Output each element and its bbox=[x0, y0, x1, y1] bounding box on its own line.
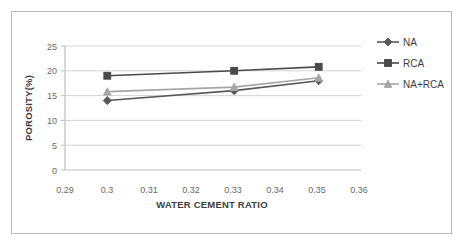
y-axis-tick-labels: 25 20 15 10 5 0 bbox=[47, 42, 57, 176]
chart-canvas: 25 20 15 10 5 0 POROSITY(%) 0.29 0.3 0.3… bbox=[12, 12, 453, 235]
x-tick-label: 0.3 bbox=[101, 185, 114, 195]
x-tick-label: 0.33 bbox=[224, 185, 242, 195]
legend-label: RCA bbox=[403, 58, 424, 69]
legend-item-na[interactable]: NA bbox=[377, 37, 417, 48]
x-tick-label: 0.36 bbox=[350, 185, 368, 195]
porosity-line-chart: 25 20 15 10 5 0 POROSITY(%) 0.29 0.3 0.3… bbox=[12, 12, 453, 235]
legend-item-rca[interactable]: RCA bbox=[377, 58, 424, 69]
data-point-marker bbox=[104, 72, 111, 79]
y-tick-label: 10 bbox=[47, 116, 57, 126]
x-axis-title: WATER CEMENT RATIO bbox=[156, 199, 267, 210]
x-tick-label: 0.32 bbox=[182, 185, 200, 195]
square-marker-icon bbox=[385, 60, 392, 67]
y-tick-label: 0 bbox=[52, 166, 57, 176]
legend-label: NA+RCA bbox=[403, 79, 444, 90]
x-axis-tick-labels: 0.29 0.3 0.31 0.32 0.33 0.34 0.35 0.36 bbox=[56, 185, 368, 195]
y-axis-title: POROSITY(%) bbox=[23, 75, 34, 141]
legend-item-na-plus-rca[interactable]: NA+RCA bbox=[377, 79, 444, 90]
y-tick-label: 25 bbox=[47, 42, 57, 52]
x-tick-label: 0.34 bbox=[266, 185, 284, 195]
x-tick-label: 0.35 bbox=[308, 185, 326, 195]
y-tick-label: 5 bbox=[52, 141, 57, 151]
x-tick-label: 0.29 bbox=[56, 185, 74, 195]
y-tick-label: 15 bbox=[47, 91, 57, 101]
data-point-marker bbox=[231, 67, 238, 74]
chart-frame: 25 20 15 10 5 0 POROSITY(%) 0.29 0.3 0.3… bbox=[11, 11, 452, 234]
chart-legend: NARCANA+RCA bbox=[377, 37, 444, 90]
y-tick-label: 20 bbox=[47, 66, 57, 76]
data-point-marker bbox=[315, 63, 322, 70]
legend-label: NA bbox=[403, 37, 417, 48]
diamond-marker-icon bbox=[384, 38, 392, 46]
x-tick-label: 0.31 bbox=[140, 185, 158, 195]
